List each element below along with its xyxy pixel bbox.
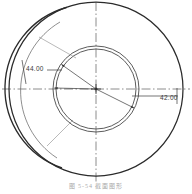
- radius-leaders: [55, 65, 135, 109]
- outer-offset-arc-thin: [21, 22, 60, 158]
- dimension-label-right: 42.00: [160, 95, 178, 102]
- dimension-extension-lines: [22, 60, 178, 104]
- dimension-label-left: 44.00: [26, 66, 44, 73]
- hatch-leaders: [39, 37, 76, 146]
- radius-leader-upper: [62, 65, 97, 90]
- hatch-leader-upper: [39, 37, 76, 58]
- hatch-leader-lower: [47, 120, 73, 146]
- technical-drawing-figure: 44.00 42.00 图 5-54 截面图形: [0, 0, 192, 194]
- figure-caption: 图 5-54 截面图形: [0, 183, 192, 189]
- radius-leader-lower-right: [96, 89, 134, 108]
